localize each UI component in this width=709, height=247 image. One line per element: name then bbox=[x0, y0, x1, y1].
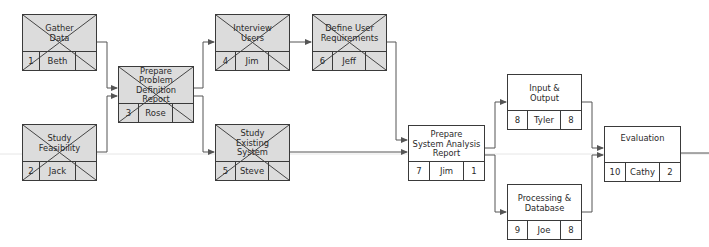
task-duration bbox=[173, 104, 193, 122]
task-title: Input & Output bbox=[508, 75, 581, 112]
task-info-row: 9 Joe 8 bbox=[508, 220, 581, 239]
task-title: Evaluation bbox=[605, 127, 680, 151]
network-diagram: Gather Data 1 Beth Study Feasibility 2 J… bbox=[0, 0, 709, 247]
task-title: Gather Data bbox=[23, 15, 96, 52]
task-owner: Steve bbox=[236, 162, 269, 180]
edge-7-8 bbox=[485, 102, 506, 148]
task-id: 8 bbox=[508, 111, 528, 129]
task-info-row: 2 Jack bbox=[23, 161, 96, 180]
task-id: 2 bbox=[23, 162, 40, 180]
task-owner: Jeff bbox=[333, 52, 366, 70]
task-title: Prepare System Analysis Report bbox=[409, 126, 484, 163]
task-duration: 8 bbox=[561, 111, 581, 129]
task-info-row: 5 Steve bbox=[216, 161, 289, 180]
task-info-row: 8 Tyler 8 bbox=[508, 110, 581, 129]
task-info-row: 10 Cathy 2 bbox=[605, 162, 680, 181]
edge-1-3 bbox=[96, 42, 117, 88]
task-id: 9 bbox=[508, 221, 528, 239]
task-id: 10 bbox=[605, 163, 626, 181]
task-owner: Rose bbox=[139, 104, 173, 122]
task-duration bbox=[366, 52, 386, 70]
task-owner: Beth bbox=[40, 52, 76, 70]
task-duration bbox=[269, 52, 289, 70]
task-title: Processing & Database bbox=[508, 185, 581, 222]
task-id: 3 bbox=[119, 104, 139, 122]
task-id: 5 bbox=[216, 162, 236, 180]
task-duration bbox=[76, 162, 96, 180]
task-id: 7 bbox=[409, 162, 430, 180]
task-node-evaluation[interactable]: Evaluation 10 Cathy 2 bbox=[604, 126, 681, 182]
task-id: 1 bbox=[23, 52, 40, 70]
task-duration bbox=[76, 52, 96, 70]
task-node-input-output[interactable]: Input & Output 8 Tyler 8 bbox=[507, 74, 582, 130]
task-owner: Jack bbox=[40, 162, 76, 180]
task-node-prepare-problem-definition-report[interactable]: Prepare Problem Definition Report 3 Rose bbox=[118, 66, 194, 123]
task-node-prepare-system-analysis-report[interactable]: Prepare System Analysis Report 7 Jim 1 bbox=[408, 125, 485, 181]
task-info-row: 3 Rose bbox=[119, 103, 193, 122]
task-owner: Jim bbox=[430, 162, 464, 180]
task-title: Study Feasibility bbox=[23, 125, 96, 162]
edge-3-4 bbox=[194, 42, 214, 88]
task-owner: Jim bbox=[236, 52, 269, 70]
task-info-row: 1 Beth bbox=[23, 51, 96, 70]
edge-3-5 bbox=[194, 96, 214, 152]
task-info-row: 4 Jim bbox=[216, 51, 289, 70]
task-owner: Joe bbox=[528, 221, 561, 239]
task-owner: Cathy bbox=[626, 163, 660, 181]
task-node-gather-data[interactable]: Gather Data 1 Beth bbox=[22, 14, 97, 71]
task-duration: 8 bbox=[561, 221, 581, 239]
task-id: 6 bbox=[313, 52, 333, 70]
task-owner: Tyler bbox=[528, 111, 561, 129]
task-title: Define User Requirements bbox=[313, 15, 386, 52]
task-info-row: 7 Jim 1 bbox=[409, 161, 484, 180]
edge-6-7 bbox=[387, 42, 407, 140]
task-id: 4 bbox=[216, 52, 236, 70]
task-duration: 1 bbox=[464, 162, 484, 180]
task-title: Prepare Problem Definition Report bbox=[119, 67, 193, 104]
task-node-processing-database[interactable]: Processing & Database 9 Joe 8 bbox=[507, 184, 582, 240]
task-title: Study Existing System bbox=[216, 125, 289, 162]
task-title: Interview Users bbox=[216, 15, 289, 52]
edge-8-10 bbox=[582, 102, 603, 148]
task-duration bbox=[269, 162, 289, 180]
task-node-study-feasibility[interactable]: Study Feasibility 2 Jack bbox=[22, 124, 97, 181]
edge-2-3 bbox=[96, 96, 117, 152]
task-node-study-existing-system[interactable]: Study Existing System 5 Steve bbox=[215, 124, 290, 181]
edge-7-9 bbox=[485, 155, 506, 212]
task-node-define-user-requirements[interactable]: Define User Requirements 6 Jeff bbox=[312, 14, 387, 71]
task-info-row: 6 Jeff bbox=[313, 51, 386, 70]
task-node-interview-users[interactable]: Interview Users 4 Jim bbox=[215, 14, 290, 71]
task-duration: 2 bbox=[660, 163, 680, 181]
edge-9-10 bbox=[582, 155, 603, 212]
